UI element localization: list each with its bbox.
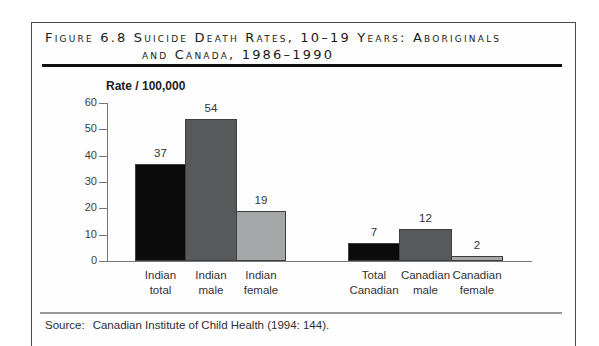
bar-value-label: 12 xyxy=(406,212,446,224)
category-line-1: Canadian xyxy=(432,268,522,283)
y-tick-label: 50 xyxy=(73,122,97,134)
y-tick-mark xyxy=(99,261,107,262)
title-line-1: Figure 6.8 Suicide Death Rates, 10–19 Ye… xyxy=(45,29,565,46)
source-line: Source:Canadian Institute of Child Healt… xyxy=(45,319,329,331)
y-tick-mark xyxy=(99,129,107,130)
bar-value-label: 7 xyxy=(354,226,394,238)
y-tick-label: 20 xyxy=(73,201,97,213)
source-rule xyxy=(40,312,562,314)
source-label: Source: xyxy=(45,319,85,331)
x-axis xyxy=(107,261,532,262)
y-tick-mark xyxy=(99,208,107,209)
y-tick-mark xyxy=(99,103,107,104)
figure-title: Figure 6.8 Suicide Death Rates, 10–19 Ye… xyxy=(45,29,565,63)
category-line-2: female xyxy=(216,283,306,298)
y-tick-label: 60 xyxy=(73,96,97,108)
y-tick-label: 10 xyxy=(73,228,97,240)
y-tick-label: 0 xyxy=(73,254,97,266)
bar-value-label: 37 xyxy=(141,147,181,159)
y-tick-mark xyxy=(99,182,107,183)
bar xyxy=(185,119,237,261)
bar xyxy=(451,256,503,261)
title-rule xyxy=(42,64,562,67)
title-line-2: and Canada, 1986–1990 xyxy=(142,46,565,63)
y-tick-label: 40 xyxy=(73,149,97,161)
category-line-1: Indian xyxy=(216,268,306,283)
source-text: Canadian Institute of Child Health (1994… xyxy=(93,319,330,331)
bar-value-label: 54 xyxy=(191,102,231,114)
y-tick-mark xyxy=(99,156,107,157)
bar xyxy=(236,211,286,261)
y-axis xyxy=(107,103,108,261)
bar xyxy=(399,229,452,261)
bar-value-label: 2 xyxy=(457,239,497,251)
bar-category-label: Canadianfemale xyxy=(432,268,522,298)
bar xyxy=(135,164,186,261)
category-line-2: female xyxy=(432,283,522,298)
y-axis-label: Rate / 100,000 xyxy=(106,79,185,93)
bar-category-label: Indianfemale xyxy=(216,268,306,298)
y-tick-label: 30 xyxy=(73,175,97,187)
y-tick-mark xyxy=(99,235,107,236)
bar xyxy=(348,243,400,261)
bar-value-label: 19 xyxy=(241,194,281,206)
